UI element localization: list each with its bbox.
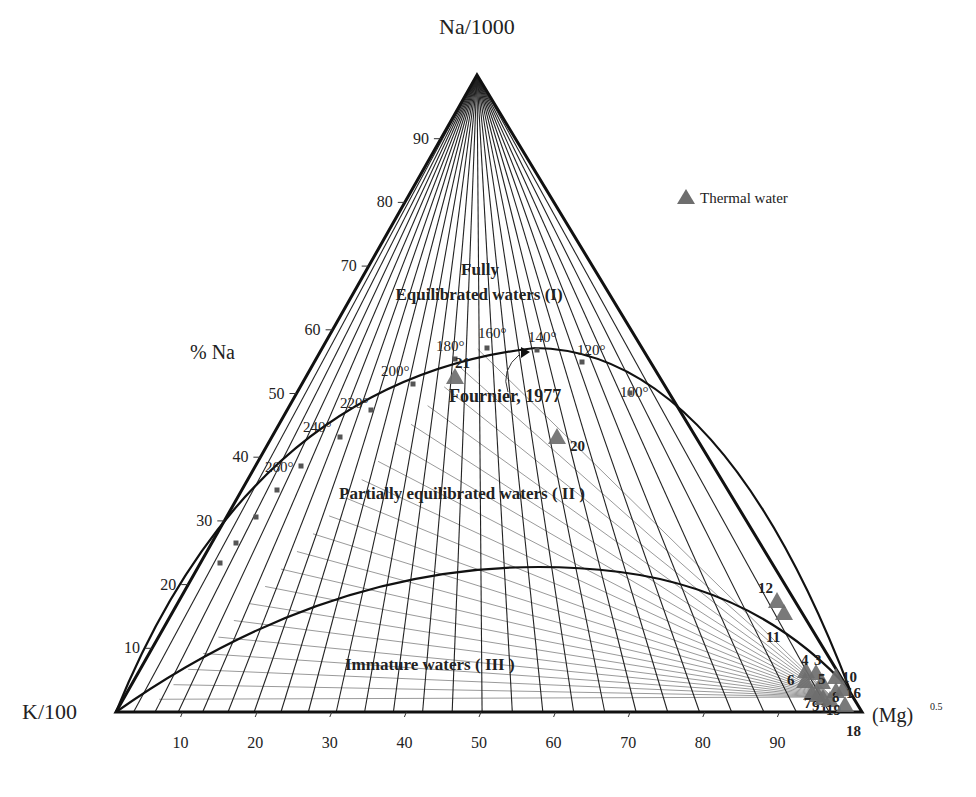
isotherm-marker	[535, 348, 540, 353]
left-tick-label: 60	[305, 321, 321, 338]
vertex-k-label: K/100	[22, 699, 77, 724]
left-tick-label: 20	[160, 576, 176, 593]
isotherm-label: 180°	[436, 338, 465, 354]
left-tick-label: 40	[232, 448, 248, 465]
sample-label: 4	[801, 652, 809, 668]
left-tick-label: 30	[196, 512, 212, 529]
sample-label: 11	[766, 629, 780, 645]
left-tick-label: 10	[124, 639, 140, 656]
isotherm-marker	[218, 561, 223, 566]
isotherm-ray	[134, 75, 477, 712]
sample-label: 16	[846, 685, 862, 701]
left-tick-label: 50	[269, 385, 285, 402]
tie-line	[173, 685, 832, 697]
sample-label: 21	[455, 355, 470, 371]
isotherm-marker	[254, 515, 259, 520]
isotherm-label: 160°	[478, 325, 507, 341]
vertex-mg-exponent: 0.5	[930, 701, 943, 712]
bottom-tick-label: 30	[322, 734, 338, 751]
isotherm-marker	[628, 391, 633, 396]
left-tick-label: 80	[377, 193, 393, 210]
isotherm-label: 220°	[340, 395, 369, 411]
legend: Thermal water	[677, 189, 788, 206]
region-fully-label: Fully	[461, 260, 499, 279]
bottom-tick-label: 20	[247, 734, 263, 751]
tie-line	[159, 697, 832, 699]
isotherm-label: 120°	[577, 342, 606, 358]
bottom-tick-label: 60	[546, 734, 562, 751]
isotherm-label: 140°	[528, 329, 557, 345]
tie-line	[218, 637, 832, 697]
fournier-annotation: Fournier, 1977	[449, 386, 561, 406]
bottom-tick-label: 90	[769, 734, 785, 751]
isotherm-ray	[203, 75, 477, 712]
sample-triangle-icon	[548, 428, 566, 444]
sample-label: 18	[846, 723, 861, 739]
sample-label: 3	[814, 652, 822, 668]
isotherm-label: 200°	[381, 363, 410, 379]
isotherm-ray	[155, 75, 477, 712]
ternary-diagram: 102030405060708090102030405060708090 100…	[0, 0, 976, 797]
isotherm-marker	[234, 541, 239, 546]
vertex-mg-label: (Mg)	[872, 704, 913, 727]
sample-label: 6	[787, 672, 795, 688]
bottom-tick-label: 40	[396, 734, 412, 751]
isotherm-label: 260°	[265, 459, 294, 475]
sample-label: 5	[818, 671, 826, 687]
legend-triangle-icon	[677, 189, 695, 204]
left-axis-title: % Na	[190, 341, 235, 363]
bottom-tick-label: 10	[173, 734, 189, 751]
bottom-tick-label: 50	[471, 734, 487, 751]
sample-label: 12	[758, 580, 773, 596]
isotherm-label: 100°	[620, 384, 649, 400]
isotherm-marker	[485, 346, 490, 351]
bottom-tick-label: 70	[620, 734, 636, 751]
isotherm-marker	[369, 408, 374, 413]
isotherm-label: 240°	[303, 419, 332, 435]
sample-label: 20	[570, 438, 585, 454]
region-immature-label: Immature waters ( III )	[345, 655, 515, 674]
vertex-na-label: Na/1000	[439, 14, 515, 39]
isotherm-marker	[338, 435, 343, 440]
isotherm-marker	[411, 382, 416, 387]
legend-label: Thermal water	[700, 190, 788, 206]
isotherm-ray	[228, 75, 477, 712]
isotherm-marker	[299, 464, 304, 469]
isotherm-marker	[275, 488, 280, 493]
sample-label: 7	[804, 695, 812, 711]
left-tick-label: 70	[341, 257, 357, 274]
bottom-tick-label: 80	[695, 734, 711, 751]
left-tick-label: 90	[413, 130, 429, 147]
isotherm-marker	[580, 360, 585, 365]
region-equilibrated-label: Equilibrated waters (I)	[395, 285, 562, 304]
region-partial-label: Partially equilibrated waters ( II )	[339, 484, 585, 503]
